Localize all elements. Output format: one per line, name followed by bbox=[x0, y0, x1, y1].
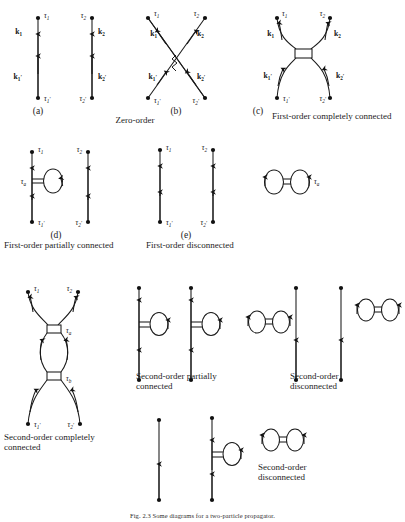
figure-page: τ1 τ1′ k1 k1′ τ2 τ2′ k2 k2′ τ1 τ2 τ1′ τ2… bbox=[0, 0, 405, 522]
panel-h-diagram bbox=[248, 286, 399, 382]
label-taua-e: τa bbox=[314, 177, 320, 187]
label-tau2-a: τ2 bbox=[81, 11, 87, 21]
label-tau2p-d: τ2′ bbox=[76, 218, 83, 228]
panel-letter-c: (c) bbox=[253, 106, 264, 117]
label-tau1-c: τ1 bbox=[282, 9, 288, 19]
panel-g-diagram bbox=[137, 286, 220, 382]
panel-letter-b: (b) bbox=[170, 106, 181, 117]
label-tau1-f: τ1 bbox=[34, 284, 40, 294]
label-k2p-b: k2′ bbox=[197, 72, 206, 82]
panel-c-diagram bbox=[275, 16, 332, 100]
label-k2-a: k2 bbox=[98, 27, 105, 37]
label-tau2p-a: τ2′ bbox=[80, 94, 87, 104]
label-k2p-c: k2′ bbox=[336, 71, 345, 81]
label-tau2-f: τ2 bbox=[67, 284, 73, 294]
panel-i-diagram bbox=[157, 416, 304, 502]
label-tau2p-e: τ2′ bbox=[201, 218, 208, 228]
label-k1-c: k1 bbox=[267, 29, 274, 39]
label-tau1p-a: τ1′ bbox=[44, 94, 51, 104]
panel-a-diagram bbox=[36, 16, 94, 100]
label-tau2-d: τ2 bbox=[77, 145, 83, 155]
label-k1-a: k1 bbox=[15, 27, 22, 37]
panel-kind-c: First-order completely connected bbox=[272, 111, 404, 121]
label-tau1p-b: τ1′ bbox=[154, 96, 161, 106]
panel-letter-a: (a) bbox=[33, 106, 44, 117]
label-k2-c: k2 bbox=[334, 29, 341, 39]
label-tau1-d: τ1 bbox=[38, 145, 44, 155]
panel-f-diagram bbox=[26, 290, 82, 426]
panel-kind-i: Second-order disconnected bbox=[258, 462, 354, 482]
label-tau1p-c: τ1′ bbox=[283, 94, 290, 104]
label-tau2p-b: τ2′ bbox=[193, 96, 200, 106]
label-tau2-c: τ2 bbox=[320, 9, 326, 19]
figure-caption: Fig. 2.3 Some diagrams for a two-particl… bbox=[0, 512, 405, 519]
diagram-text-labels: τ1 τ1′ k1 k1′ τ2 τ2′ k2 k2′ τ1 τ2 τ1′ τ2… bbox=[14, 9, 345, 430]
panel-kind-g: Second-order partially connected bbox=[136, 371, 246, 391]
label-k1p-c: k1′ bbox=[264, 71, 273, 81]
label-tau1p-f: τ1′ bbox=[34, 420, 41, 430]
label-taua-d: τa bbox=[21, 177, 27, 187]
label-tau1p-e: τ1′ bbox=[166, 218, 173, 228]
panel-kind-e: First-order disconnected bbox=[146, 240, 238, 250]
label-tau1p-d: τ1′ bbox=[38, 218, 45, 228]
panel-d-diagram bbox=[30, 150, 90, 224]
panel-e-diagram bbox=[158, 148, 310, 224]
label-k1p-b: k1′ bbox=[149, 72, 158, 82]
label-tau2-e: τ2 bbox=[202, 143, 208, 153]
label-tau1-e: τ1 bbox=[166, 143, 172, 153]
label-tau1-b: τ1 bbox=[154, 9, 160, 19]
label-taua-f: τa bbox=[66, 326, 72, 336]
label-taub-f: τb bbox=[66, 374, 72, 384]
label-k2-b: k2 bbox=[197, 29, 204, 39]
panel-kind-f: Second-order completely connected bbox=[4, 432, 116, 452]
label-tau2-b: τ2 bbox=[194, 9, 200, 19]
panel-kind-d: First-order partially connected bbox=[4, 240, 124, 250]
label-k1p-a: k1′ bbox=[14, 72, 23, 82]
label-k2p-a: k2′ bbox=[98, 72, 107, 82]
label-tau2p-f: τ2′ bbox=[68, 420, 75, 430]
panel-kind-h: Second-order disconnected bbox=[290, 371, 386, 391]
label-tau1-a: τ1 bbox=[44, 11, 50, 21]
label-tau2p-c: τ2′ bbox=[320, 94, 327, 104]
